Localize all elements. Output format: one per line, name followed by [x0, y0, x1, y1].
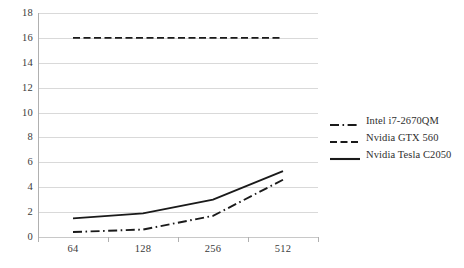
y-tick-label: 16 — [3, 33, 33, 44]
y-axis-tick-labels: 024681012141618 — [0, 13, 33, 237]
series-line — [73, 171, 283, 218]
y-tick-label: 18 — [3, 8, 33, 19]
x-tick-mark — [248, 237, 249, 242]
legend-label: Intel i7-2670QM — [366, 115, 439, 126]
x-tick-mark — [318, 237, 319, 242]
x-tick-label: 512 — [258, 243, 308, 256]
x-tick-label: 256 — [188, 243, 238, 256]
chart-legend: Intel i7-2670QMNvidia GTX 560Nvidia Tesl… — [330, 112, 462, 163]
x-tick-label: 128 — [118, 243, 168, 256]
legend-item[interactable]: Nvidia GTX 560 — [330, 129, 462, 146]
y-tick-label: 10 — [3, 107, 33, 118]
y-axis-line — [38, 13, 39, 237]
x-tick-mark — [178, 237, 179, 242]
series-layer — [38, 13, 318, 237]
legend-label: Nvidia Tesla C2050 — [366, 149, 451, 160]
legend-label: Nvidia GTX 560 — [366, 132, 439, 143]
y-tick-label: 4 — [3, 182, 33, 193]
legend-item[interactable]: Intel i7-2670QM — [330, 112, 462, 129]
legend-line-swatch-icon — [330, 133, 360, 143]
y-tick-label: 2 — [3, 207, 33, 218]
legend-item[interactable]: Nvidia Tesla C2050 — [330, 146, 462, 163]
y-tick-label: 6 — [3, 157, 33, 168]
y-tick-label: 12 — [3, 82, 33, 93]
x-tick-mark — [38, 237, 39, 242]
x-tick-mark — [108, 237, 109, 242]
y-tick-label: 0 — [3, 232, 33, 243]
y-tick-label: 8 — [3, 132, 33, 143]
y-tick-label: 14 — [3, 58, 33, 69]
legend-line-swatch-icon — [330, 116, 360, 126]
legend-line-swatch-icon — [330, 150, 360, 160]
plot-area — [38, 13, 318, 237]
x-tick-label: 64 — [48, 243, 98, 256]
line-chart-figure: 024681012141618 64128256512 Intel i7-267… — [0, 0, 464, 268]
